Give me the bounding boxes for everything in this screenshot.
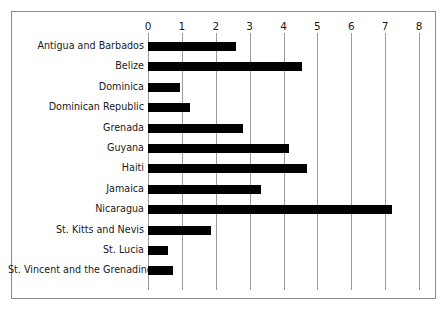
category-label: Haiti <box>8 163 144 173</box>
category-label: St. Kitts and Nevis <box>8 225 144 235</box>
x-tick-label-1: 1 <box>167 20 197 32</box>
gridline-5 <box>317 36 318 290</box>
x-tick-label-3: 3 <box>235 20 265 32</box>
gridline-1 <box>182 36 183 290</box>
category-label: Guyana <box>8 143 144 153</box>
category-label: Dominica <box>8 82 144 92</box>
bar <box>148 266 173 275</box>
x-tick-label-6: 6 <box>336 20 366 32</box>
gridline-4 <box>284 36 285 290</box>
category-label: St. Lucia <box>8 245 144 255</box>
bar <box>148 246 168 255</box>
gridline-6 <box>351 36 352 290</box>
x-tick-label-4: 4 <box>269 20 299 32</box>
bar <box>148 62 302 71</box>
bar <box>148 42 236 51</box>
category-label: Belize <box>8 61 144 71</box>
gridline-3 <box>250 36 251 290</box>
gridline-2 <box>216 36 217 290</box>
x-tick-label-2: 2 <box>201 20 231 32</box>
bar <box>148 164 307 173</box>
plot-area: 012345678 Antigua and BarbadosBelizeDomi… <box>0 0 448 313</box>
x-tick-label-8: 8 <box>404 20 434 32</box>
category-label: Nicaragua <box>8 204 144 214</box>
bar <box>148 185 261 194</box>
gridline-8 <box>419 36 420 290</box>
x-tick-label-7: 7 <box>370 20 400 32</box>
category-label: Grenada <box>8 123 144 133</box>
chart-figure: 012345678 Antigua and BarbadosBelizeDomi… <box>0 0 448 313</box>
bar <box>148 124 243 133</box>
bar <box>148 83 180 92</box>
bar <box>148 103 190 112</box>
category-label: St. Vincent and the Grenadines <box>8 265 144 275</box>
category-label: Antigua and Barbados <box>8 41 144 51</box>
x-tick-label-5: 5 <box>302 20 332 32</box>
gridline-7 <box>385 36 386 290</box>
category-label: Jamaica <box>8 184 144 194</box>
bar <box>148 205 392 214</box>
x-tick-label-0: 0 <box>133 20 163 32</box>
bar <box>148 226 211 235</box>
bar <box>148 144 289 153</box>
category-label: Dominican Republic <box>8 102 144 112</box>
